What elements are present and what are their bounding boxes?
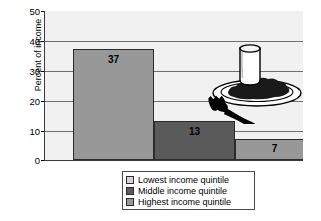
y-tick-label-50: 50: [20, 7, 40, 16]
legend-item-middle[interactable]: Middle income quintile: [126, 185, 251, 196]
y-tick-label-30: 30: [20, 67, 40, 76]
bar-highest-income-quintile[interactable]: 7: [235, 139, 303, 160]
bar-value-label-3: 7: [236, 143, 303, 154]
legend-label-middle: Middle income quintile: [138, 186, 227, 196]
y-tick-label-0: 0: [20, 156, 40, 165]
meal-illustration: [195, 44, 303, 124]
bar-value-label-2: 13: [155, 126, 234, 137]
legend-label-lowest: Lowest income quintile: [138, 175, 229, 185]
y-tick-label-20: 20: [20, 97, 40, 106]
plot-area: 37 13 7: [44, 11, 303, 161]
bar-lowest-income-quintile[interactable]: 37: [73, 49, 154, 160]
legend-swatch-middle-icon: [126, 187, 134, 195]
chart-legend: Lowest income quintile Middle income qui…: [122, 171, 255, 210]
bar-chart: Percent of income 50 40 30 20 10 0 37 13…: [0, 0, 321, 221]
bar-value-label-1: 37: [74, 54, 153, 65]
legend-swatch-highest-icon: [126, 198, 134, 206]
legend-swatch-lowest-icon: [126, 176, 134, 184]
legend-item-lowest[interactable]: Lowest income quintile: [126, 174, 251, 185]
bar-middle-income-quintile[interactable]: 13: [154, 121, 235, 160]
y-tick-label-10: 10: [20, 127, 40, 136]
gridline-40: [45, 41, 303, 42]
legend-label-highest: Highest income quintile: [138, 197, 231, 207]
y-tick-label-40: 40: [20, 37, 40, 46]
y-axis-tick-labels: 50 40 30 20 10 0: [18, 0, 40, 221]
legend-item-highest[interactable]: Highest income quintile: [126, 196, 251, 207]
